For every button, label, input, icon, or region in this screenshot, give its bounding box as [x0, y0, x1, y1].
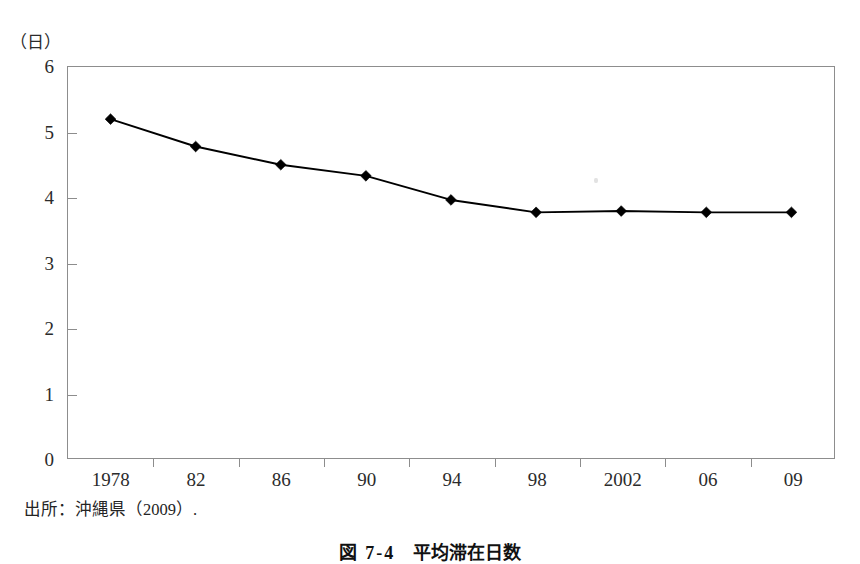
x-axis-tick: [153, 458, 154, 467]
y-axis-tick: [68, 395, 77, 396]
x-axis-tick: [751, 458, 752, 467]
data-point-marker: [616, 206, 627, 217]
y-axis-tick-label: 5: [45, 122, 55, 144]
x-axis-tick-label: 06: [699, 469, 718, 491]
x-axis-tick-label: 98: [528, 469, 547, 491]
data-point-marker: [701, 207, 712, 218]
y-axis-tick-label: 2: [45, 318, 55, 340]
x-axis-tick: [495, 458, 496, 467]
y-axis-tick: [68, 198, 77, 199]
x-axis-tick-label: 82: [187, 469, 206, 491]
chart-plot-inner: 0123456 1978828690949820020609: [68, 67, 834, 458]
chart-plot-area: 0123456 1978828690949820020609: [67, 66, 835, 459]
source-note: 出所：沖縄県（2009）.: [24, 496, 197, 520]
x-axis-tick-label: 2002: [604, 469, 642, 491]
x-axis-tick-label: 86: [272, 469, 291, 491]
y-axis-tick: [68, 133, 77, 134]
x-axis-tick: [239, 458, 240, 467]
x-axis-tick-label: 09: [784, 469, 803, 491]
series-line: [111, 119, 792, 212]
figure-caption: 図 7-4平均滞在日数: [0, 538, 860, 564]
y-axis-tick-label: 6: [45, 56, 55, 78]
data-point-marker: [190, 141, 201, 152]
y-axis-tick-label: 0: [45, 449, 55, 471]
y-axis-tick: [68, 264, 77, 265]
data-point-marker: [531, 207, 542, 218]
figure-caption-title: 平均滞在日数: [413, 543, 521, 563]
figure-caption-number: 図 7-4: [339, 543, 396, 563]
y-axis-tick: [68, 329, 77, 330]
data-point-marker: [275, 159, 286, 170]
data-point-marker: [446, 195, 457, 206]
x-axis-tick: [665, 458, 666, 467]
x-axis-tick-label: 1978: [92, 469, 130, 491]
x-axis-tick-label: 90: [357, 469, 376, 491]
x-axis-tick: [580, 458, 581, 467]
line-series-chart: [68, 67, 834, 458]
x-axis-tick: [324, 458, 325, 467]
y-axis-unit-label: （日）: [10, 28, 61, 53]
data-point-marker: [361, 170, 372, 181]
y-axis-tick-label: 4: [45, 187, 55, 209]
scan-artifact-speck: [594, 178, 598, 183]
x-axis-tick-label: 94: [443, 469, 462, 491]
data-point-marker: [105, 114, 116, 125]
data-point-marker: [786, 207, 797, 218]
x-axis-tick: [409, 458, 410, 467]
y-axis-tick-label: 1: [45, 384, 55, 406]
y-axis-tick-label: 3: [45, 253, 55, 275]
